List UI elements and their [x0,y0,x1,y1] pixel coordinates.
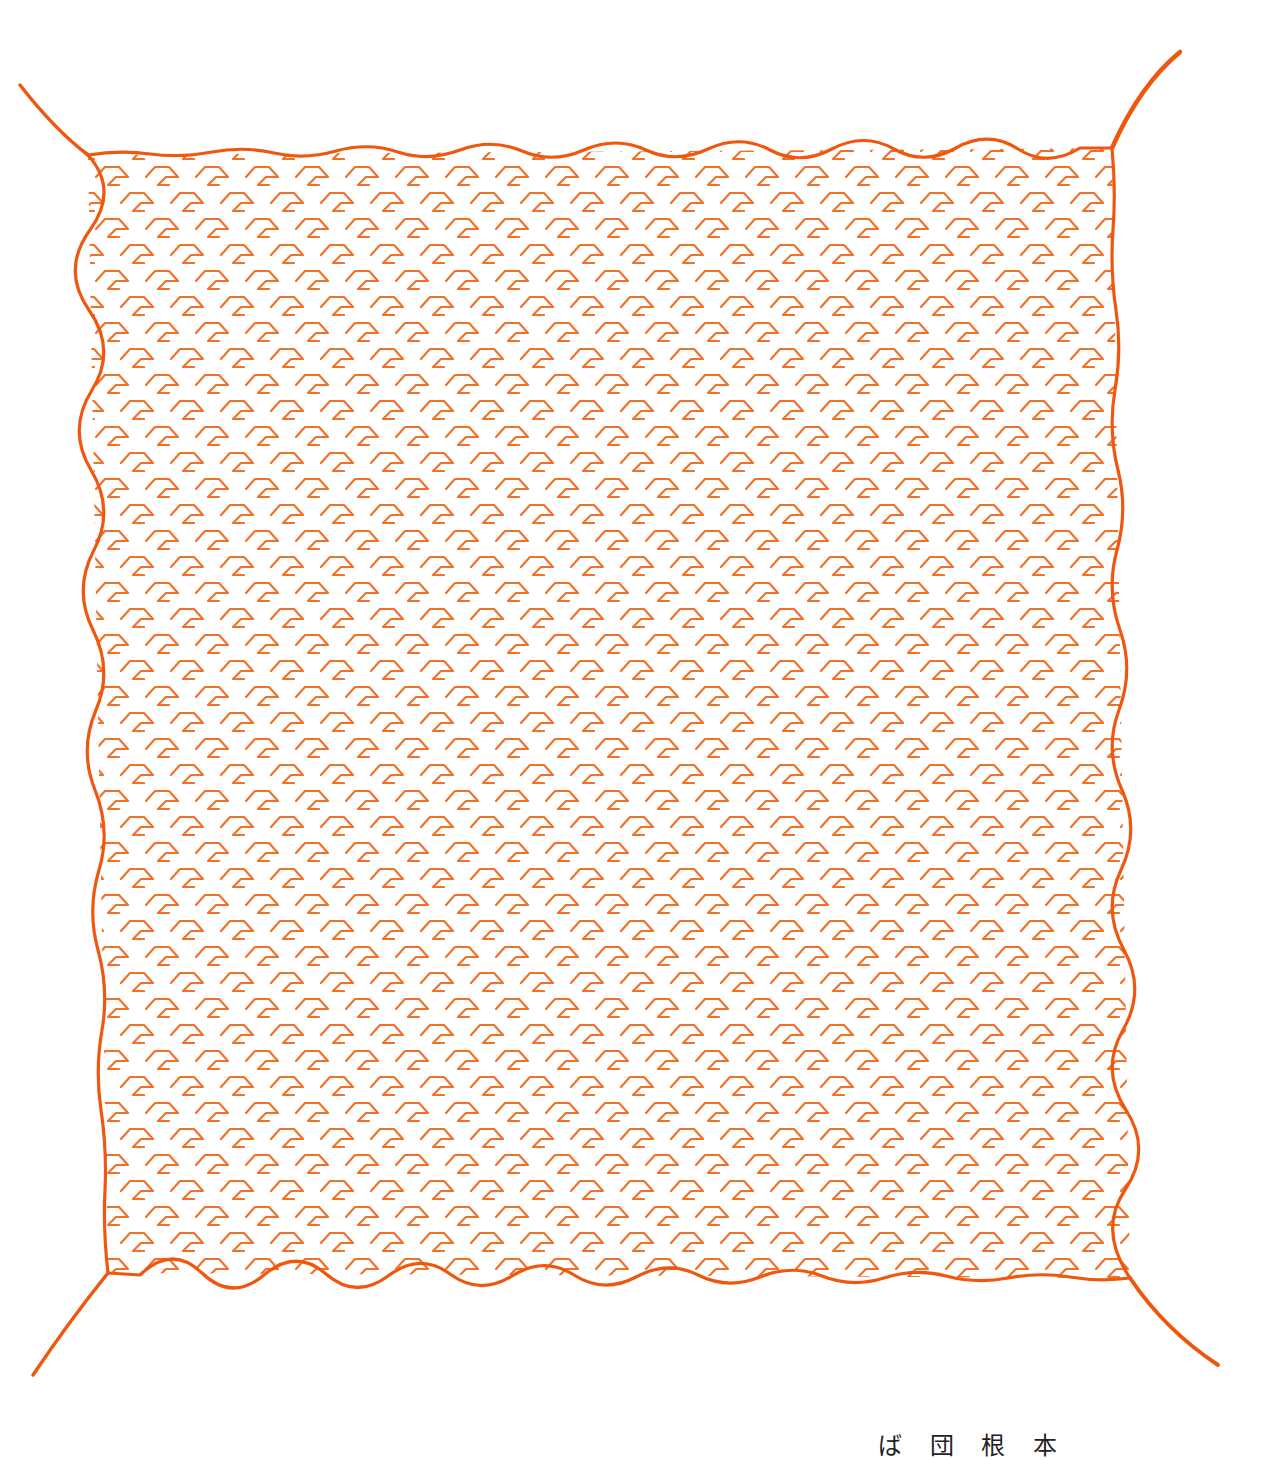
tassel-bottom-left [33,1273,108,1375]
tassel-bottom-right [1130,1278,1218,1365]
caption-text: ば 団 根 本 [878,1434,1067,1458]
cloth-pattern [80,140,1140,1290]
tassel-top-left [20,85,88,155]
tassel-top-right [1112,52,1180,148]
